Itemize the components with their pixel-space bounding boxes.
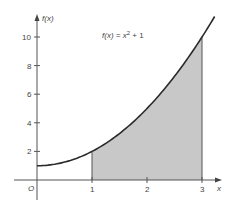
y-axis-label: f(x): [42, 14, 54, 23]
x-tick-label: 2: [145, 185, 150, 194]
y-tick-label: 4: [27, 119, 32, 128]
x-axis-arrow-icon: [215, 178, 222, 183]
y-tick-label: 2: [27, 147, 32, 156]
y-tick-label: 10: [22, 33, 31, 42]
chart-canvas: 123 246810 O x f(x) f(x) = x2 + 1: [0, 0, 234, 209]
origin-label: O: [28, 184, 34, 193]
y-tick-label: 8: [27, 62, 32, 71]
function-label: f(x) = x2 + 1: [102, 30, 144, 40]
x-tick-label: 1: [90, 185, 95, 194]
x-tick-label: 3: [200, 185, 205, 194]
y-tick-label: 6: [27, 90, 32, 99]
y-axis-arrow-icon: [35, 14, 40, 21]
x-axis-label: x: [216, 184, 222, 193]
